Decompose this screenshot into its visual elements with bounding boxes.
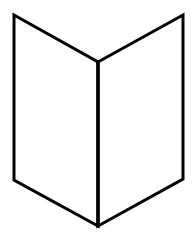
folded-panel-diagram [0, 0, 194, 241]
right-panel [98, 15, 183, 226]
left-panel [14, 15, 98, 226]
